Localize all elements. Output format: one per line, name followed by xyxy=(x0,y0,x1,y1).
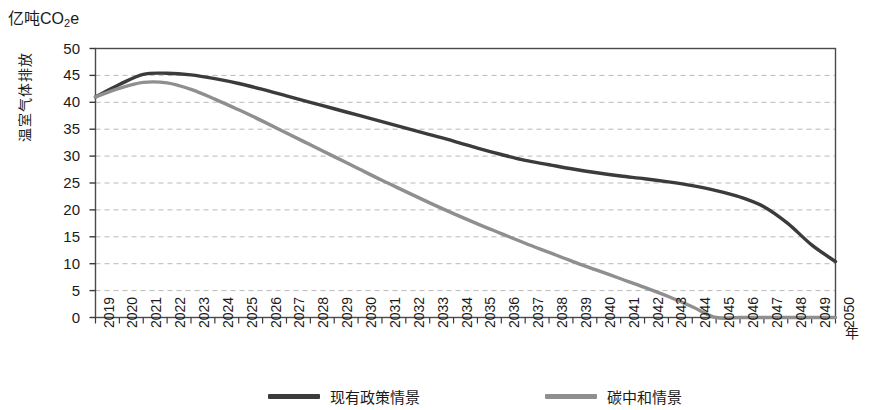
y-tick-label: 35 xyxy=(42,121,80,136)
x-tick-label: 2043 xyxy=(674,296,688,327)
legend-label: 现有政策情景 xyxy=(330,386,420,407)
x-tick-label: 2046 xyxy=(746,296,760,327)
x-tick-label: 2041 xyxy=(627,296,641,327)
data-series xyxy=(96,73,836,318)
x-tick-label: 2047 xyxy=(770,296,784,327)
legend-item[interactable]: 现有政策情景 xyxy=(268,386,420,407)
emissions-scenario-chart: 亿吨CO2e 温室气体排放 50454035302520151050 20192… xyxy=(0,0,871,410)
x-tick-label: 2024 xyxy=(221,296,235,327)
x-tick-label: 2019 xyxy=(102,296,116,327)
y-tick-label: 30 xyxy=(42,148,80,163)
x-tick-label: 2023 xyxy=(197,296,211,327)
x-tick-label: 2040 xyxy=(603,296,617,327)
chart-legend: 现有政策情景碳中和情景 xyxy=(0,386,871,410)
x-tick-label: 2037 xyxy=(531,296,545,327)
x-tick-label: 2044 xyxy=(698,296,712,327)
x-tick-label: 2028 xyxy=(316,296,330,327)
y-tick-label: 50 xyxy=(42,41,80,56)
x-tick-label: 2045 xyxy=(722,296,736,327)
x-tick-label: 2036 xyxy=(507,296,521,327)
legend-item[interactable]: 碳中和情景 xyxy=(545,386,682,407)
y-tick-label: 25 xyxy=(42,175,80,190)
y-tick-label: 20 xyxy=(42,202,80,217)
x-tick-label: 2032 xyxy=(412,296,426,327)
x-tick-label: 2022 xyxy=(173,296,187,327)
x-tick-label: 2030 xyxy=(364,296,378,327)
x-axis-title: 年 xyxy=(845,322,859,342)
y-tick-label: 15 xyxy=(42,229,80,244)
x-tick-label: 2049 xyxy=(818,296,832,327)
plot-canvas xyxy=(0,0,871,410)
x-tick-label: 2031 xyxy=(388,296,402,327)
y-tick-label: 45 xyxy=(42,67,80,82)
x-tick-label: 2033 xyxy=(436,296,450,327)
x-tick-label: 2026 xyxy=(269,296,283,327)
x-tick-label: 2039 xyxy=(579,296,593,327)
series-line xyxy=(96,73,836,262)
x-tick-label: 2042 xyxy=(651,296,665,327)
x-tick-label: 2048 xyxy=(794,296,808,327)
y-tick-label: 0 xyxy=(42,310,80,325)
y-tick-label: 5 xyxy=(42,283,80,298)
series-line xyxy=(96,82,836,318)
x-tick-label: 2025 xyxy=(245,296,259,327)
legend-color-swatch xyxy=(545,394,597,399)
legend-color-swatch xyxy=(268,394,320,399)
y-tick-label: 40 xyxy=(42,94,80,109)
x-tick-label: 2021 xyxy=(149,296,163,327)
x-tick-label: 2027 xyxy=(292,296,306,327)
x-tick-label: 2034 xyxy=(460,296,474,327)
x-tick-label: 2029 xyxy=(340,296,354,327)
gridlines xyxy=(96,75,836,290)
x-tick-label: 2035 xyxy=(483,296,497,327)
x-tick-label: 2038 xyxy=(555,296,569,327)
y-tick-label: 10 xyxy=(42,256,80,271)
x-tick-label: 2020 xyxy=(125,296,139,327)
legend-label: 碳中和情景 xyxy=(607,386,682,407)
y-axis-ticks xyxy=(90,49,96,318)
